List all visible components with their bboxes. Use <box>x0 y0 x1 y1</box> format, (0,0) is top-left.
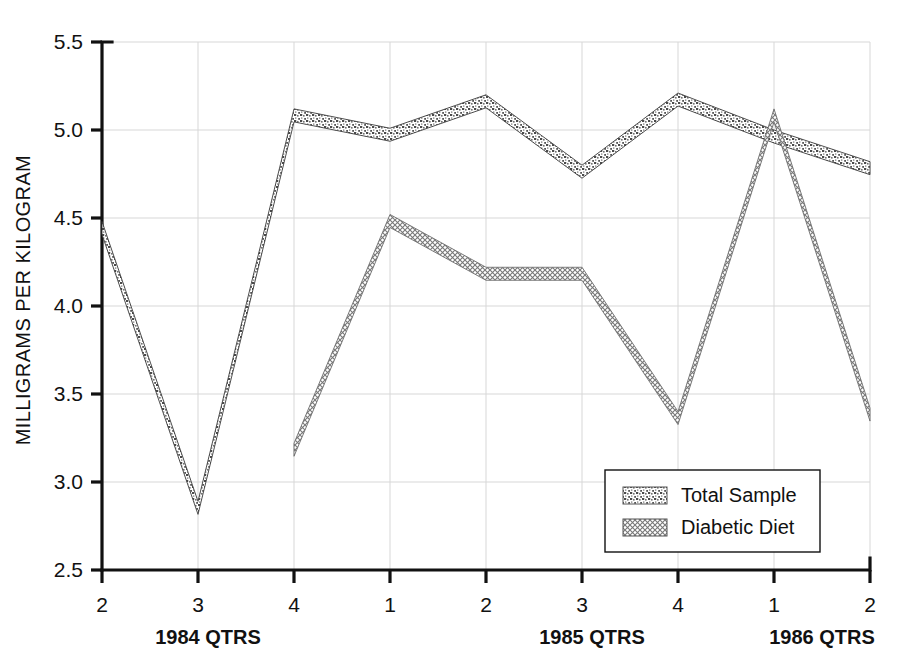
x-axis-tick-label: 3 <box>576 593 588 616</box>
y-axis-tick-label: 5.0 <box>54 118 83 141</box>
y-axis-tick-label: 4.0 <box>54 294 83 317</box>
x-axis-tick-label: 4 <box>288 593 300 616</box>
x-axis-tick-label: 2 <box>480 593 492 616</box>
y-axis-tick-label: 3.5 <box>54 382 83 405</box>
y-axis-tick-label: 4.5 <box>54 206 83 229</box>
y-axis-tick-label: 3.0 <box>54 470 83 493</box>
x-axis-group-labels: 1984 QTRS1985 QTRS1986 QTRS <box>155 626 875 648</box>
legend-swatch-diabetic-diet <box>623 519 667 536</box>
x-axis-group-label: 1986 QTRS <box>769 626 875 648</box>
legend-swatch-total-sample <box>623 487 667 504</box>
x-axis-ticks <box>102 570 870 583</box>
x-axis-tick-label: 4 <box>672 593 684 616</box>
y-axis-tick-label: 2.5 <box>54 558 83 581</box>
legend-label: Diabetic Diet <box>681 516 795 538</box>
y-axis-tick-label: 5.5 <box>54 30 83 53</box>
legend-box <box>605 470 820 552</box>
line-chart: 2.53.03.54.04.55.05.5 234123412 1984 QTR… <box>0 0 898 661</box>
x-axis-tick-label: 1 <box>768 593 780 616</box>
x-axis-tick-label: 2 <box>864 593 876 616</box>
x-axis-labels: 234123412 <box>96 593 876 616</box>
legend-label: Total Sample <box>681 484 797 506</box>
x-axis-group-label: 1985 QTRS <box>539 626 645 648</box>
chart-legend: Total SampleDiabetic Diet <box>605 470 820 552</box>
y-axis-labels: 2.53.03.54.04.55.05.5 <box>54 30 83 581</box>
x-axis-tick-label: 2 <box>96 593 108 616</box>
y-axis-title: MILLIGRAMS PER KILOGRAM <box>12 155 34 445</box>
x-axis-group-label: 1984 QTRS <box>155 626 261 648</box>
x-axis-tick-label: 1 <box>384 593 396 616</box>
x-axis-tick-label: 3 <box>192 593 204 616</box>
chart-container: 2.53.03.54.04.55.05.5 234123412 1984 QTR… <box>0 0 898 661</box>
y-axis-ticks <box>91 42 102 570</box>
